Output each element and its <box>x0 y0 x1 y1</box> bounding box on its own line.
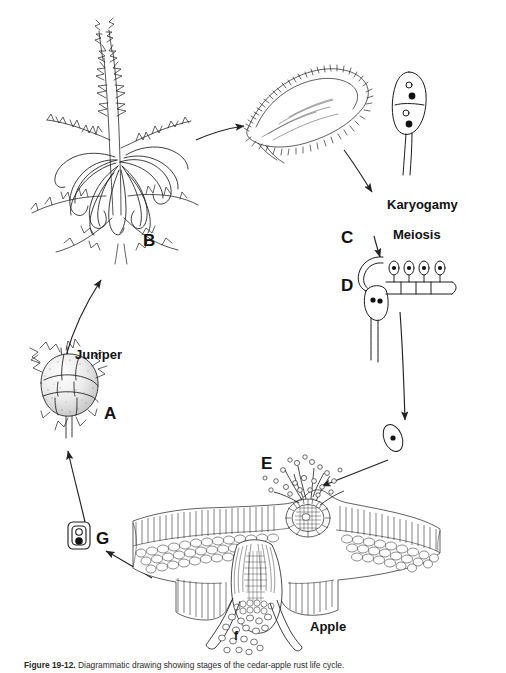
label-stage-e: E <box>261 455 272 472</box>
label-host-juniper: Juniper <box>75 348 122 361</box>
label-host-apple: Apple <box>310 620 346 633</box>
label-process-karyogamy: Karyogamy <box>387 198 458 211</box>
label-stage-d: D <box>341 277 353 294</box>
label-stage-f: f <box>234 630 238 642</box>
label-stage-b: B <box>143 232 155 249</box>
label-stage-c: C <box>341 229 353 246</box>
figure-caption: Figure 19-12. Diagrammatic drawing showi… <box>24 660 488 671</box>
label-process-meiosis: Meiosis <box>393 228 441 241</box>
caption-prefix: Figure 19-12. <box>24 660 76 670</box>
apple-leaf-cross-section <box>0 0 506 673</box>
rust-life-cycle-figure: B Juniper A C Karyogamy Meiosis D E G f … <box>0 0 506 673</box>
label-stage-a: A <box>104 405 116 422</box>
label-stage-g: G <box>96 530 109 547</box>
caption-text: Diagrammatic drawing showing stages of t… <box>78 660 344 670</box>
